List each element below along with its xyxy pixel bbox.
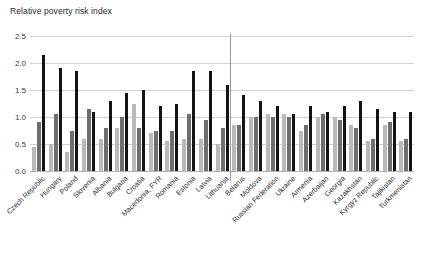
bar <box>221 128 225 171</box>
bar <box>383 125 387 171</box>
bar <box>226 85 229 171</box>
bar <box>271 117 275 171</box>
bar-group <box>130 36 147 171</box>
y-axis-tick-label: 2.5 <box>15 32 26 41</box>
bar <box>125 93 128 171</box>
y-axis-tick-label: 0.5 <box>15 140 26 149</box>
bar-group <box>364 36 381 171</box>
region-divider <box>230 34 231 181</box>
bar <box>165 141 169 171</box>
bar <box>75 71 78 171</box>
bar <box>159 106 162 171</box>
bar <box>282 114 286 171</box>
bar <box>237 125 241 171</box>
bar <box>366 141 370 171</box>
bar <box>254 117 258 171</box>
bar <box>99 139 103 171</box>
bar-groups <box>30 36 414 171</box>
y-axis-tick-label: 0.0 <box>15 167 26 176</box>
bar <box>287 117 291 171</box>
bar <box>209 71 212 171</box>
bar <box>32 147 36 171</box>
bar-group <box>47 36 64 171</box>
bar <box>354 128 358 171</box>
bar <box>299 131 303 172</box>
x-axis-labels: Czech RepublicHungaryPolandSloveniaAlban… <box>30 172 414 252</box>
bar <box>82 139 86 171</box>
bar <box>59 68 62 171</box>
bar-group <box>264 36 281 171</box>
bar <box>338 120 342 171</box>
bar <box>54 114 58 171</box>
bar <box>316 117 320 171</box>
bar-group <box>281 36 298 171</box>
bar-group <box>247 36 264 171</box>
bar-group <box>397 36 414 171</box>
bar-group <box>347 36 364 171</box>
bar <box>309 106 312 171</box>
y-axis-tick-label: 2.0 <box>15 59 26 68</box>
y-axis-tick-label: 1.5 <box>15 86 26 95</box>
bar <box>216 144 220 171</box>
plot-area: 0.00.51.01.52.02.5 <box>30 36 414 171</box>
bar <box>115 128 119 171</box>
bar <box>333 117 337 171</box>
chart-title: Relative poverty risk index <box>10 6 112 16</box>
bar <box>349 125 353 171</box>
bar <box>371 139 375 171</box>
bar-group <box>297 36 314 171</box>
bar <box>393 112 396 171</box>
bar-group <box>63 36 80 171</box>
bar-group <box>381 36 398 171</box>
poverty-risk-chart: Relative poverty risk index 0.00.51.01.5… <box>0 0 423 253</box>
bar-group <box>180 36 197 171</box>
bar <box>404 139 408 171</box>
bar <box>276 106 279 171</box>
bar <box>326 112 329 171</box>
bar <box>109 101 112 171</box>
bar <box>92 112 95 171</box>
bar <box>388 122 392 171</box>
bar <box>175 104 178 172</box>
bar-group <box>30 36 47 171</box>
bar-group <box>214 36 231 171</box>
bar <box>142 90 145 171</box>
bar-group <box>80 36 97 171</box>
bar <box>187 114 191 171</box>
bar <box>65 152 69 171</box>
bar <box>376 109 379 171</box>
bar <box>192 71 195 171</box>
bar <box>249 117 253 171</box>
bar <box>359 101 362 171</box>
bar <box>321 114 325 171</box>
bar <box>242 95 245 171</box>
bar <box>87 109 91 171</box>
bar-group <box>147 36 164 171</box>
bar <box>132 104 136 172</box>
bar-group <box>97 36 114 171</box>
bar <box>292 114 295 171</box>
bar <box>104 128 108 171</box>
bar-group <box>314 36 331 171</box>
bar-group <box>164 36 181 171</box>
bar <box>304 125 308 171</box>
bar <box>137 128 141 171</box>
bar-group <box>331 36 348 171</box>
bar <box>259 101 262 171</box>
bar <box>37 122 41 171</box>
bar <box>399 141 403 171</box>
y-axis-tick-label: 1.0 <box>15 113 26 122</box>
bar <box>199 139 203 171</box>
bar <box>232 125 236 171</box>
bar <box>343 106 346 171</box>
bar <box>154 131 158 172</box>
bar-group <box>197 36 214 171</box>
bar-group <box>230 36 247 171</box>
bar <box>120 117 124 171</box>
bar <box>149 133 153 171</box>
bar <box>42 55 45 171</box>
bar-group <box>114 36 131 171</box>
bar <box>170 131 174 172</box>
bar <box>266 114 270 171</box>
bar <box>49 144 53 171</box>
